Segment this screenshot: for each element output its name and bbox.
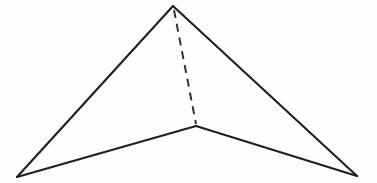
edge-bottom-left-to-back: [17, 126, 196, 177]
hidden-edge-apex-to-back: [174, 10, 196, 124]
tetrahedron-diagram: [0, 0, 377, 183]
edge-apex-to-bottom-left: [17, 6, 173, 177]
edge-apex-to-bottom-right: [173, 6, 357, 176]
edge-back-to-bottom-right: [196, 126, 357, 176]
figure-canvas: [0, 0, 377, 183]
